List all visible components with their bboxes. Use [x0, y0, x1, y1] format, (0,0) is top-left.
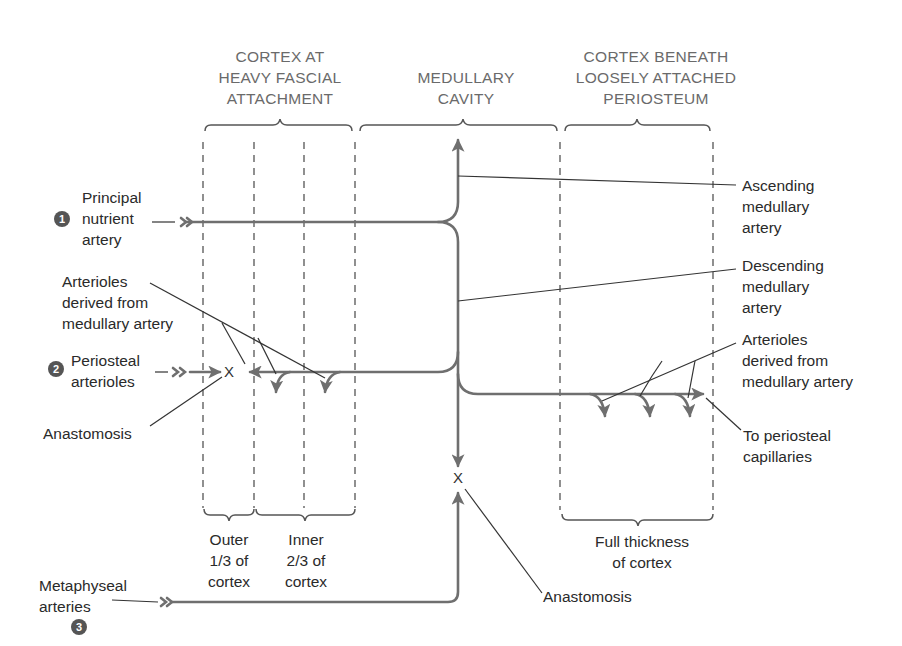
label-descending-medullary-artery: Descending medullary artery: [742, 257, 824, 316]
leader-ascending: [458, 176, 736, 185]
leader-anastomosis-center: [465, 489, 542, 593]
svg-text:arterioles: arterioles: [71, 373, 135, 390]
header-left-cortex: CORTEX AT HEAVY FASCIAL ATTACHMENT: [218, 48, 341, 107]
double-chevron-metaphyseal-icon: [161, 598, 172, 606]
leader-arterioles-left: [150, 283, 325, 378]
right-medullary-branch: [458, 374, 703, 416]
svg-text:artery: artery: [742, 299, 782, 316]
svg-text:medullary: medullary: [742, 278, 809, 295]
svg-text:nutrient: nutrient: [82, 210, 134, 227]
right-branch-path: [458, 374, 703, 394]
svg-text:cortex: cortex: [285, 573, 327, 590]
header-right-cortex: CORTEX BENEATH LOOSELY ATTACHED PERIOSTE…: [576, 48, 736, 107]
leader-arterioles-right: [602, 343, 736, 401]
periosteal-arterioles: [173, 368, 220, 376]
header-left-cortex-line-3: ATTACHMENT: [227, 90, 334, 107]
svg-text:Principal: Principal: [82, 189, 141, 206]
header-right-cortex-line-3: PERIOSTEUM: [603, 90, 708, 107]
descending-medullary-artery-path: [438, 222, 458, 466]
svg-text:arteries: arteries: [39, 598, 91, 615]
top-brace-right-cortex: [565, 119, 710, 131]
header-right-cortex-line-1: CORTEX BENEATH: [584, 48, 729, 65]
bone-blood-supply-diagram: CORTEX AT HEAVY FASCIAL ATTACHMENT MEDUL…: [0, 0, 902, 646]
double-chevron-entry-icon: [181, 218, 192, 226]
svg-text:derived from: derived from: [742, 352, 828, 369]
left-arteriole-2: [325, 372, 340, 392]
bottom-brace-outer-cortex: [204, 509, 254, 521]
ascending-medullary-artery-path: [186, 140, 458, 222]
right-arteriole-1: [590, 394, 605, 416]
left-branch-path: [250, 352, 458, 372]
number-2-circle-icon: 2: [48, 361, 64, 377]
svg-text:artery: artery: [742, 219, 782, 236]
svg-text:Descending: Descending: [742, 257, 824, 274]
svg-text:Inner: Inner: [288, 531, 323, 548]
svg-text:derived from: derived from: [62, 294, 148, 311]
label-ascending-medullary-artery: Ascending medullary artery: [742, 177, 814, 236]
principal-nutrient-artery: [181, 140, 458, 466]
svg-text:Ascending: Ascending: [742, 177, 814, 194]
label-arterioles-left: Arterioles derived from medullary artery: [62, 273, 173, 332]
leader-arterioles-right-mid: [652, 361, 662, 376]
leader-metaphyseal: [112, 600, 158, 602]
left-arteriole-1: [276, 372, 290, 392]
label-inner-cortex: Inner 2/3 of cortex: [285, 531, 327, 590]
right-arteriole-2: [635, 394, 650, 416]
header-left-cortex-line-1: CORTEX AT: [235, 48, 324, 65]
label-full-thickness-cortex: Full thickness of cortex: [595, 533, 689, 571]
leader-to-periosteal: [706, 398, 741, 430]
svg-text:of cortex: of cortex: [612, 554, 672, 571]
anastomosis-marker-left: X: [224, 363, 234, 380]
svg-text:medullary artery: medullary artery: [742, 373, 853, 390]
label-periosteal-arterioles: Periosteal arterioles: [71, 352, 140, 390]
svg-text:Arterioles: Arterioles: [742, 331, 808, 348]
svg-text:2: 2: [53, 363, 59, 375]
leader-arterioles-left-branch-2: [258, 338, 276, 374]
header-medullary-line-1: MEDULLARY: [417, 69, 514, 86]
number-3-circle-icon: 3: [71, 619, 87, 635]
left-medullary-branch: [250, 352, 458, 392]
svg-text:cortex: cortex: [208, 573, 250, 590]
label-anastomosis-center: Anastomosis: [543, 588, 632, 605]
svg-text:Outer: Outer: [210, 531, 249, 548]
label-metaphyseal-arteries: Metaphyseal arteries: [39, 577, 127, 615]
label-arterioles-right: Arterioles derived from medullary artery: [742, 331, 853, 390]
svg-text:medullary artery: medullary artery: [62, 315, 173, 332]
top-brace-left-cortex: [205, 119, 352, 131]
svg-text:1: 1: [59, 213, 65, 225]
anastomosis-marker-center: X: [453, 469, 463, 486]
top-brace-medullary: [360, 119, 557, 131]
leader-anastomosis-left: [150, 377, 222, 426]
svg-text:capillaries: capillaries: [743, 448, 812, 465]
svg-text:artery: artery: [82, 231, 122, 248]
svg-text:medullary: medullary: [742, 198, 809, 215]
svg-text:Anastomosis: Anastomosis: [43, 425, 132, 442]
svg-text:Metaphyseal: Metaphyseal: [39, 577, 127, 594]
bottom-brace-full-thickness: [562, 514, 713, 526]
svg-text:Anastomosis: Anastomosis: [543, 588, 632, 605]
number-1-circle-icon: 1: [54, 211, 70, 227]
svg-text:2/3 of: 2/3 of: [287, 552, 326, 569]
label-principal-nutrient-artery: Principal nutrient artery: [82, 189, 141, 248]
header-left-cortex-line-2: HEAVY FASCIAL: [218, 69, 341, 86]
double-chevron-periosteal-icon: [173, 368, 185, 376]
bottom-brace-inner-cortex: [256, 509, 355, 521]
svg-text:1/3 of: 1/3 of: [210, 552, 249, 569]
svg-text:Full thickness: Full thickness: [595, 533, 689, 550]
svg-text:Arterioles: Arterioles: [62, 273, 128, 290]
header-medullary-line-2: CAVITY: [438, 90, 495, 107]
label-to-periosteal-capillaries: To periosteal capillaries: [743, 427, 831, 465]
svg-text:Periosteal: Periosteal: [71, 352, 140, 369]
label-anastomosis-left: Anastomosis: [43, 425, 132, 442]
svg-text:3: 3: [76, 621, 82, 633]
label-outer-cortex: Outer 1/3 of cortex: [208, 531, 250, 590]
leader-descending: [458, 269, 736, 301]
header-medullary-cavity: MEDULLARY CAVITY: [417, 69, 514, 107]
svg-text:To periosteal: To periosteal: [743, 427, 831, 444]
leader-arterioles-right-branch-2: [688, 361, 695, 398]
leader-arterioles-left-branch-1: [222, 323, 245, 364]
header-right-cortex-line-2: LOOSELY ATTACHED: [576, 69, 736, 86]
